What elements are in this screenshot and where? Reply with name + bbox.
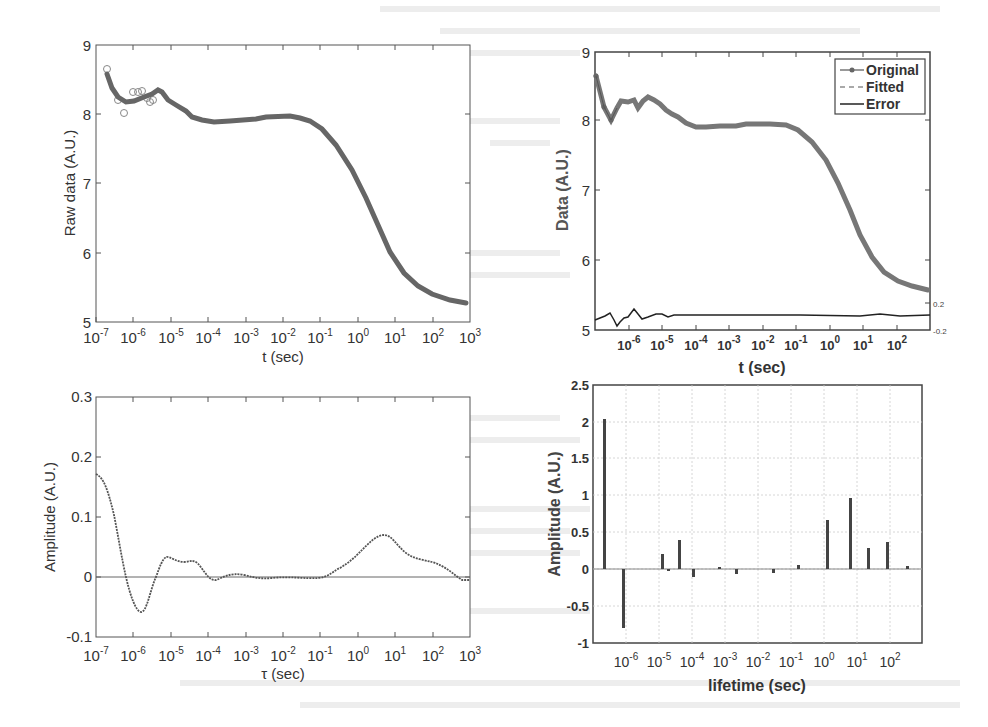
panel-raw-data: 98765 10-7 10-6 10-5 10-4 10-3 10-2 10-1… [61,37,482,365]
svg-text:10-7: 10-7 [83,327,109,346]
x-tick-labels: 10-6 10-5 10-4 10-3 10-2 10-1 100 101 10… [617,334,907,353]
svg-text:10-5: 10-5 [158,645,184,664]
svg-text:0.2: 0.2 [71,448,92,465]
legend-error: Error [866,96,901,112]
x-tick-labels: 10-7 10-6 10-5 10-4 10-3 10-2 10-1 100 1… [83,645,481,664]
svg-text:5: 5 [582,322,590,339]
svg-text:103: 103 [459,327,482,346]
x-axis-label: τ (sec) [261,665,304,682]
y-axis-label: Amplitude (A.U.) [41,462,58,572]
svg-text:1: 1 [582,488,589,503]
svg-text:10-2: 10-2 [270,327,296,346]
y-tick-labels: 0.30.20.10-0.1 [66,388,92,645]
y-axis-label: Raw data (A.U.) [61,130,78,237]
svg-text:10-3: 10-3 [233,327,259,346]
svg-text:8: 8 [582,112,590,129]
svg-text:0.2: 0.2 [933,300,945,309]
svg-text:10-6: 10-6 [120,327,146,346]
svg-text:8: 8 [83,106,91,123]
svg-text:10-5: 10-5 [158,327,184,346]
svg-text:103: 103 [459,645,482,664]
x-axis-label: lifetime (sec) [708,677,806,694]
figure-canvas: 98765 10-7 10-6 10-5 10-4 10-3 10-2 10-1… [0,0,988,727]
svg-text:6: 6 [582,252,590,269]
svg-text:10-6: 10-6 [617,334,641,353]
svg-text:100: 100 [820,334,840,353]
svg-text:7: 7 [582,182,590,199]
svg-text:10-2: 10-2 [746,651,771,670]
svg-text:-0.5: -0.5 [567,599,589,614]
svg-text:2.5: 2.5 [571,378,589,393]
right-axis-ticks: 0.2 -0.2 [933,300,947,336]
svg-text:0: 0 [582,562,589,577]
svg-text:10-4: 10-4 [195,327,221,346]
svg-text:0.5: 0.5 [571,525,589,540]
svg-text:-0.1: -0.1 [66,628,92,645]
svg-text:100: 100 [347,327,370,346]
svg-text:101: 101 [846,651,868,670]
svg-text:102: 102 [422,645,445,664]
y-tick-labels: 98765 [582,44,590,339]
svg-text:10-4: 10-4 [684,334,708,353]
svg-text:7: 7 [83,175,91,192]
svg-text:0.3: 0.3 [71,388,92,405]
svg-text:10-7: 10-7 [83,645,109,664]
svg-text:6: 6 [83,245,91,262]
svg-text:10-4: 10-4 [195,645,221,664]
svg-text:10-5: 10-5 [647,651,672,670]
x-axis-label: t (sec) [262,348,304,365]
y-tick-labels: 98765 [83,37,91,331]
svg-text:10-5: 10-5 [650,334,674,353]
svg-text:101: 101 [384,327,407,346]
svg-text:10-1: 10-1 [784,334,808,353]
svg-text:10-2: 10-2 [751,334,775,353]
legend: Original Fitted Error [835,59,925,114]
svg-text:0.1: 0.1 [71,508,92,525]
panel-distribution: 0.30.20.10-0.1 10-7 10-6 10-5 10-4 10-3 … [41,388,482,682]
svg-text:102: 102 [887,334,907,353]
legend-fitted: Fitted [866,79,904,95]
plot-area [593,385,922,643]
svg-text:10-1: 10-1 [779,651,804,670]
svg-text:9: 9 [582,44,590,61]
svg-text:10-3: 10-3 [717,334,741,353]
svg-text:10-4: 10-4 [680,651,705,670]
svg-text:0: 0 [84,568,92,585]
svg-text:102: 102 [879,651,901,670]
svg-text:101: 101 [853,334,873,353]
y-axis-label: Amplitude (A.U.) [546,451,563,576]
x-tick-labels: 10-6 10-5 10-4 10-3 10-2 10-1 100 101 10… [614,651,901,670]
svg-text:10-6: 10-6 [614,651,639,670]
svg-text:2: 2 [582,415,589,430]
svg-text:10-1: 10-1 [307,645,333,664]
svg-text:1.5: 1.5 [571,451,589,466]
svg-text:10-3: 10-3 [233,645,259,664]
svg-text:101: 101 [384,645,407,664]
legend-original: Original [866,62,919,78]
svg-text:100: 100 [347,645,370,664]
x-axis-label: t (sec) [738,359,785,376]
svg-text:102: 102 [422,327,445,346]
panel-data-fit: 98765 0.2 -0.2 10-6 10-5 10-4 10-3 10-2 … [554,44,947,376]
svg-text:100: 100 [813,651,835,670]
svg-text:10-3: 10-3 [713,651,738,670]
y-axis-label: Data (A.U.) [554,149,571,231]
svg-text:10-1: 10-1 [307,327,333,346]
svg-text:9: 9 [83,37,91,54]
y-tick-labels: 2.521.5 10.50 -0.5-1 [567,378,589,651]
svg-text:-0.2: -0.2 [933,327,947,336]
svg-text:10-2: 10-2 [270,645,296,664]
svg-text:-1: -1 [577,636,589,651]
x-tick-labels: 10-7 10-6 10-5 10-4 10-3 10-2 10-1 100 1… [83,327,481,346]
svg-text:10-6: 10-6 [120,645,146,664]
plot-area [96,397,470,637]
panel-lifetimes: 2.521.5 10.50 -0.5-1 10-6 10-5 10-4 10-3… [546,378,922,694]
